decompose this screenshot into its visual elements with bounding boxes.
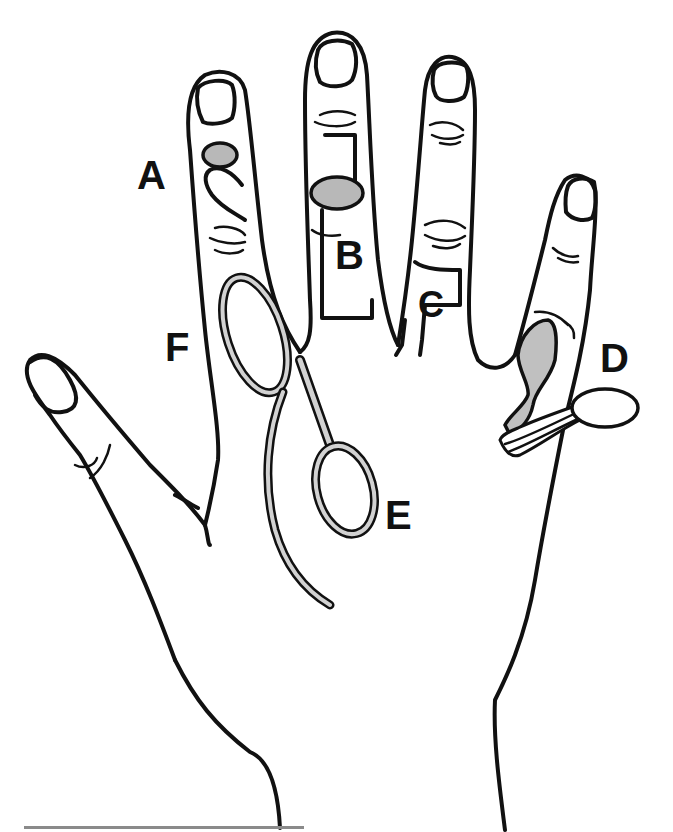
palm (175, 525, 280, 828)
index-finger (188, 72, 300, 525)
diagram-canvas: A B C D E F (0, 0, 673, 832)
marker-d-oval (572, 389, 638, 427)
marker-a-circle (203, 143, 237, 167)
hand-illustration (0, 0, 673, 832)
label-b: B (335, 235, 364, 275)
ring-finger (396, 57, 515, 368)
marker-b-oval (311, 177, 363, 209)
thumb (27, 355, 205, 660)
label-c: C (418, 287, 444, 323)
horizontal-rule (24, 826, 304, 829)
label-a: A (137, 155, 166, 195)
little-finger (495, 176, 638, 830)
label-e: E (385, 495, 412, 535)
label-f: F (165, 327, 189, 367)
label-d: D (600, 338, 629, 378)
middle-finger (300, 33, 398, 352)
